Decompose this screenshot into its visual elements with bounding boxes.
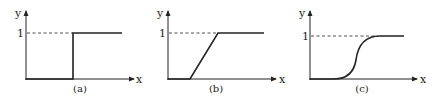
caption-c: (c) bbox=[355, 83, 369, 94]
y-axis-label: y bbox=[298, 7, 306, 20]
ramp-curve bbox=[168, 33, 264, 79]
panel-b: y x 1 (b) bbox=[156, 7, 286, 94]
y-tick-one: 1 bbox=[302, 30, 309, 43]
sigmoid-curve bbox=[310, 36, 404, 79]
panel-a: y x 1 (a) bbox=[14, 7, 143, 94]
y-tick-one: 1 bbox=[17, 27, 24, 40]
caption-a: (a) bbox=[73, 83, 87, 94]
x-axis-label: x bbox=[136, 73, 143, 86]
y-axis-label: y bbox=[14, 7, 22, 20]
step-curve bbox=[26, 33, 122, 79]
x-axis-label: x bbox=[420, 73, 427, 86]
y-tick-one: 1 bbox=[159, 27, 166, 40]
panel-c: y x 1 (c) bbox=[298, 7, 427, 94]
y-axis-label: y bbox=[156, 7, 164, 20]
x-axis-label: x bbox=[279, 73, 286, 86]
activation-functions-figure: y x 1 (a) y x 1 (b) y x 1 (c) bbox=[0, 0, 441, 99]
caption-b: (b) bbox=[209, 83, 223, 94]
